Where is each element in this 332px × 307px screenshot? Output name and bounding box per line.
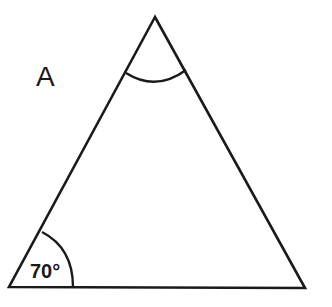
triangle-label: A xyxy=(36,61,55,92)
angle-label-70: 70° xyxy=(30,260,60,282)
apex-angle-arc xyxy=(126,70,186,82)
triangle-diagram: A 70° xyxy=(0,0,332,307)
triangle xyxy=(9,17,305,288)
